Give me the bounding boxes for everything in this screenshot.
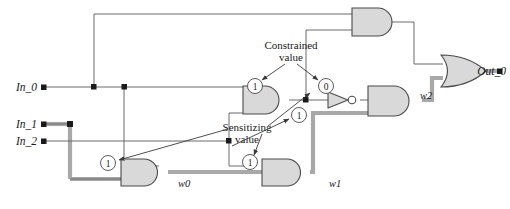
value-marker-constrained-right: 0: [319, 79, 334, 94]
circuit-svg: In_0 In_1 In_2 Out_0 w0 w1 w2 Constraine…: [0, 0, 510, 209]
value-text: 1: [253, 82, 258, 92]
input-label-in1: In_1: [15, 118, 37, 130]
value-text: 0: [324, 82, 329, 92]
and-gate-bottom-right: [262, 159, 301, 186]
annotation-constrained-line2: value: [279, 51, 303, 63]
value-text: 1: [297, 111, 302, 121]
junction-in2: [226, 138, 232, 144]
junction-in0-feedback: [91, 84, 97, 90]
terminal-in1: [41, 122, 47, 128]
value-marker-sensitize-inverter: 1: [292, 108, 307, 123]
annotation-sensitizing-arrows: [119, 93, 310, 160]
input-label-in0: In_0: [15, 81, 37, 93]
not-gate-mid: [328, 92, 356, 108]
and-gate-right: [368, 86, 409, 116]
output-label-out0: Out_0: [477, 65, 506, 77]
junction-in1: [67, 121, 73, 127]
value-text: 1: [106, 159, 111, 169]
value-marker-constrained-left: 1: [248, 79, 263, 94]
wire-label-w0: w0: [178, 178, 191, 189]
annotation-sensitizing-line1: Sensitizing: [223, 121, 272, 133]
input-label-in2: In_2: [15, 135, 37, 147]
circuit-diagram-canvas: In_0 In_1 In_2 Out_0 w0 w1 w2 Constraine…: [0, 0, 510, 209]
value-marker-sensitize-and-bottom-right: 1: [243, 155, 258, 170]
terminal-in0: [41, 85, 47, 91]
wire-in0-branch-down: [124, 87, 159, 166]
wire-label-w1: w1: [329, 178, 341, 189]
value-text: 1: [248, 158, 253, 168]
annotation-constrained-arrows: [262, 64, 318, 80]
and-gate-top: [352, 8, 399, 36]
annotation-constrained-line1: Constrained: [264, 39, 318, 51]
wire-topand-to-or: [399, 22, 443, 64]
terminal-in2: [41, 139, 47, 145]
junction-in0-branch: [122, 84, 128, 90]
wire-label-w2: w2: [420, 90, 433, 101]
value-marker-sensitize-and-bottom-left: 1: [101, 156, 116, 171]
and-gate-bottom-left: [121, 159, 158, 186]
